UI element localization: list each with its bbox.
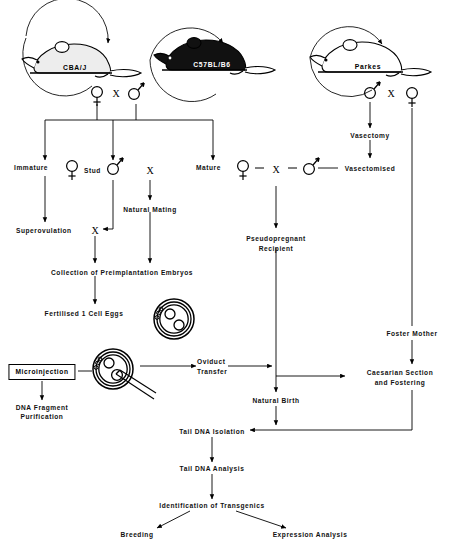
female-symbol-immature: [67, 161, 78, 180]
strain-label-c57: C57BL/B6: [193, 61, 231, 68]
arrow-identification-expression: [236, 511, 286, 528]
male-symbol-vasectomised: [304, 158, 319, 174]
strain-label-parkes: Parkes: [355, 63, 382, 70]
recycle-arc-cba: [26, 0, 108, 43]
mouse-c57: [154, 38, 275, 74]
mature-cross-operator: X: [272, 164, 279, 175]
arrow-caesarian-taildna: [250, 390, 412, 430]
female-symbol-mature: [238, 161, 249, 180]
male-symbol-stud: [108, 158, 123, 174]
egg-cell-fertilised: [154, 299, 194, 339]
connector-layer: [0, 0, 456, 546]
egg-cell-injected: [93, 349, 156, 399]
mouse-parkes: [310, 40, 431, 76]
natural-mating-operator: X: [146, 165, 153, 176]
arrow-identification-breeding: [157, 511, 190, 528]
cross-operator-left: X: [112, 88, 119, 99]
female-symbol-cross-right: [407, 88, 418, 107]
cross-operator-right: X: [387, 88, 394, 99]
mouse-cba: [22, 42, 141, 77]
male-symbol-cross-left: [129, 83, 144, 99]
male-symbol-cross-right: [365, 82, 380, 98]
superovulation-operator: X: [91, 225, 98, 236]
female-symbol-cross-left: [92, 87, 103, 106]
arrow-stud-superovulation: [103, 180, 113, 229]
diagram-canvas: CBA/J C57BL/B6 Parkes X X Immature Stud …: [0, 0, 456, 546]
strain-label-cba: CBA/J: [63, 64, 87, 71]
